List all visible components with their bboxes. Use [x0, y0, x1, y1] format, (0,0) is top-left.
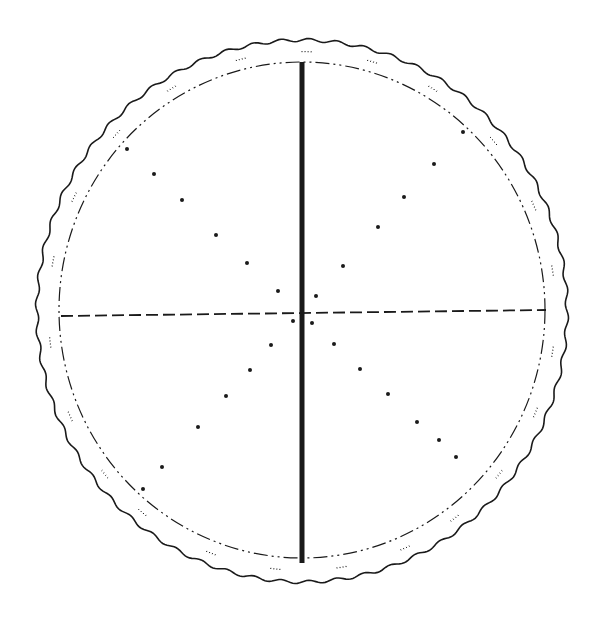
dot: [269, 343, 273, 347]
dot: [358, 367, 362, 371]
dot: [310, 321, 314, 325]
dot: [214, 233, 218, 237]
dot: [437, 438, 441, 442]
dot: [415, 420, 419, 424]
dot: [180, 198, 184, 202]
diagram-canvas: [0, 0, 603, 623]
dot: [245, 261, 249, 265]
dot: [341, 264, 345, 268]
dot: [461, 130, 465, 134]
dot: [386, 392, 390, 396]
dot-pattern: [125, 130, 465, 491]
dot: [376, 225, 380, 229]
dot: [224, 394, 228, 398]
dot: [432, 162, 436, 166]
dot: [141, 487, 145, 491]
dot: [152, 172, 156, 176]
dot: [314, 294, 318, 298]
dot: [248, 368, 252, 372]
dot: [276, 289, 280, 293]
dot: [196, 425, 200, 429]
dot: [125, 147, 129, 151]
dot: [291, 319, 295, 323]
dot: [332, 342, 336, 346]
dot: [160, 465, 164, 469]
dot: [402, 195, 406, 199]
dot: [454, 455, 458, 459]
circular-diagram: [0, 0, 603, 623]
